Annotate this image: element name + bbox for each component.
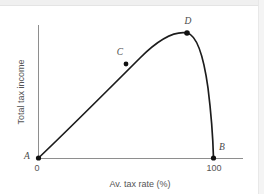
point-marker-a <box>36 155 41 160</box>
plot-area: A C D B 0 100 Av. tax rate (%) Total tax… <box>0 0 264 194</box>
point-label-a: A <box>23 151 30 161</box>
laffer-curve-path <box>39 33 214 158</box>
x-axis-title: Av. tax rate (%) <box>109 179 170 189</box>
xtick-label-0: 0 <box>34 163 39 173</box>
point-marker-d <box>184 30 190 36</box>
point-label-c: C <box>117 47 124 57</box>
point-label-d: D <box>184 16 192 26</box>
y-axis-title: Total tax income <box>16 59 26 124</box>
laffer-curve-figure: A C D B 0 100 Av. tax rate (%) Total tax… <box>0 0 264 194</box>
point-marker-b <box>211 155 216 160</box>
point-marker-c <box>124 62 129 67</box>
point-label-b: B <box>219 142 225 152</box>
xtick-label-100: 100 <box>206 163 221 173</box>
